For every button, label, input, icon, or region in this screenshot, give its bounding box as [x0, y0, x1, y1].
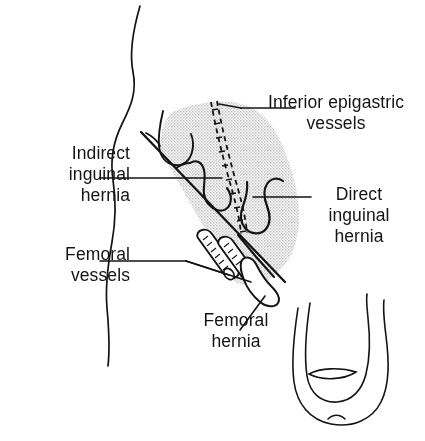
- scrotum-outline: [293, 294, 388, 425]
- label-direct-inguinal-hernia: Direct inguinal hernia: [300, 184, 418, 247]
- hernia-diagram-figure: Indirect inguinal hernia Femoral vessels…: [0, 0, 425, 441]
- label-femoral-hernia: Femoral hernia: [178, 310, 294, 352]
- label-femoral-vessels: Femoral vessels: [8, 244, 130, 286]
- label-inferior-epigastric-vessels: Inferior epigastric vessels: [250, 92, 422, 134]
- label-indirect-inguinal-hernia: Indirect inguinal hernia: [8, 143, 130, 206]
